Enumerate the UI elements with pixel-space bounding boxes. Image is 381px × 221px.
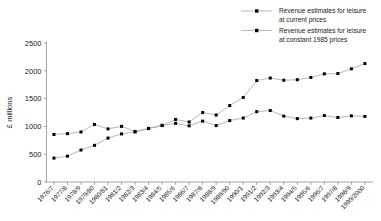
data-point-marker — [363, 62, 366, 65]
data-point-marker — [363, 115, 366, 118]
data-point-marker — [215, 114, 218, 117]
data-point-marker — [107, 127, 110, 130]
legend-label-1-line1: Revenue estimates for leisure — [279, 7, 367, 14]
data-point-marker — [336, 72, 339, 75]
data-point-marker — [242, 96, 245, 99]
data-point-marker — [52, 157, 55, 160]
data-point-marker — [201, 111, 204, 114]
data-point-marker — [120, 132, 123, 135]
y-axis-tick-label: 0 — [37, 178, 41, 187]
legend-label-1-line2: at current prices — [279, 16, 327, 24]
y-axis-tick-label: 2000 — [25, 67, 42, 76]
series-line-2 — [54, 64, 365, 135]
data-point-marker — [174, 118, 177, 121]
data-point-marker — [323, 114, 326, 117]
data-point-marker — [309, 117, 312, 120]
y-axis-tick-label: 1500 — [25, 94, 42, 103]
data-point-marker — [296, 78, 299, 81]
line-chart: 05001000150020002500£ millions1976/71977… — [0, 0, 381, 221]
data-point-marker — [93, 123, 96, 126]
data-point-marker — [309, 76, 312, 79]
data-point-marker — [134, 130, 137, 133]
data-point-marker — [52, 133, 55, 136]
data-point-marker — [350, 114, 353, 117]
legend-label-2-line1: Revenue estimates for leisure — [279, 27, 367, 34]
y-axis-tick-label: 2500 — [25, 39, 42, 48]
data-point-marker — [66, 132, 69, 135]
data-point-marker — [66, 155, 69, 158]
data-point-marker — [269, 77, 272, 80]
data-point-marker — [336, 116, 339, 119]
data-point-marker — [296, 117, 299, 120]
data-point-marker — [147, 127, 150, 130]
y-axis-title: £ millions — [5, 97, 14, 129]
series-line-1 — [54, 111, 365, 159]
data-point-marker — [242, 117, 245, 120]
data-point-marker — [255, 110, 258, 113]
data-point-marker — [161, 124, 164, 127]
data-point-marker — [282, 79, 285, 82]
data-point-marker — [228, 104, 231, 107]
legend-swatch-marker-2 — [255, 29, 258, 32]
data-point-marker — [93, 144, 96, 147]
y-axis-tick-label: 500 — [29, 150, 42, 159]
data-point-marker — [188, 124, 191, 127]
data-point-marker — [120, 125, 123, 128]
data-point-marker — [201, 120, 204, 123]
data-point-marker — [79, 130, 82, 133]
data-point-marker — [228, 119, 231, 122]
legend-swatch-marker-1 — [255, 9, 258, 12]
data-point-marker — [282, 115, 285, 118]
data-point-marker — [350, 67, 353, 70]
data-point-marker — [107, 137, 110, 140]
data-point-marker — [323, 72, 326, 75]
data-point-marker — [255, 79, 258, 82]
legend-label-2-line2: at constant 1985 prices — [279, 36, 348, 44]
data-point-marker — [188, 120, 191, 123]
data-point-marker — [79, 149, 82, 152]
y-axis-tick-label: 1000 — [25, 122, 42, 131]
data-point-marker — [174, 122, 177, 125]
data-point-marker — [269, 109, 272, 112]
data-point-marker — [215, 124, 218, 127]
chart-canvas: 05001000150020002500£ millions1976/71977… — [0, 0, 381, 221]
